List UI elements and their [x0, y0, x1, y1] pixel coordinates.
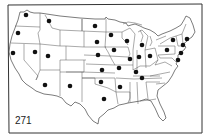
map-marker-dot	[140, 43, 145, 48]
map-marker-dot	[181, 43, 186, 48]
map-marker-dot	[47, 19, 52, 24]
map-marker-dot	[102, 97, 107, 102]
map-marker-dot	[179, 51, 184, 56]
map-marker-dot	[46, 54, 51, 59]
map-marker-dot	[100, 68, 105, 73]
map-marker-dot	[134, 70, 139, 75]
map-marker-dot	[24, 13, 29, 18]
map-marker-dot	[171, 38, 176, 43]
map-marker-dot	[137, 55, 142, 60]
figure-number-label: 271	[15, 115, 32, 126]
map-marker-dot	[68, 84, 73, 89]
map-marker-dot	[109, 33, 114, 38]
map-marker-dot	[33, 50, 38, 55]
map-marker-dot	[96, 53, 101, 58]
map-marker-dot	[185, 37, 190, 42]
map-marker-dot	[176, 58, 181, 63]
map-marker-dot	[11, 51, 16, 56]
map-frame	[8, 4, 202, 133]
map-marker-dot	[95, 40, 100, 45]
map-marker-dot	[93, 24, 98, 29]
map-marker-dot	[99, 80, 104, 85]
map-marker-dot	[117, 66, 122, 71]
map-marker-dot	[118, 85, 123, 90]
map-marker-dot	[140, 76, 145, 81]
map-marker-dot	[43, 83, 48, 88]
map-marker-dot	[148, 54, 153, 59]
map-markers	[11, 13, 190, 102]
map-marker-dot	[112, 48, 117, 53]
state-boundaries	[11, 13, 186, 104]
map-marker-dot	[165, 48, 170, 53]
map-marker-dot	[128, 57, 133, 62]
map-marker-dot	[16, 31, 21, 36]
map-marker-dot	[125, 39, 130, 44]
